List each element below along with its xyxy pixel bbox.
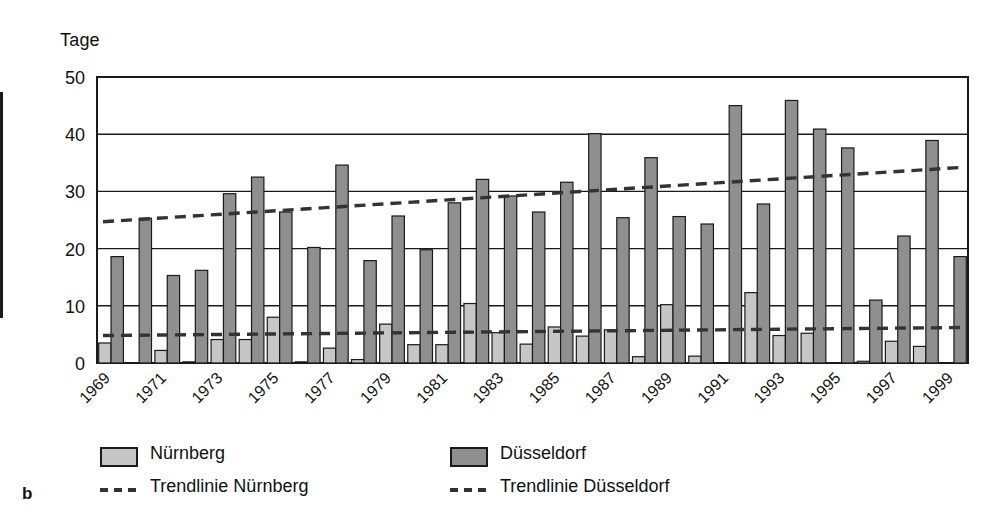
bar-nuernberg — [211, 340, 223, 363]
bar-duesseldorf — [476, 179, 488, 363]
bar-nuernberg — [576, 336, 588, 363]
x-tick-label-1985: 1985 — [526, 369, 563, 406]
bar-chart-plot: 0102030405019691971197319751977197919811… — [0, 0, 1008, 470]
bar-duesseldorf — [870, 300, 882, 363]
y-tick-label-20: 20 — [65, 240, 85, 260]
x-tick-label-1995: 1995 — [806, 369, 843, 406]
bar-duesseldorf — [898, 236, 910, 363]
bar-duesseldorf — [420, 250, 432, 363]
bar-duesseldorf — [364, 261, 376, 363]
x-tick-label-1977: 1977 — [301, 369, 338, 406]
legend-dash-nuernberg-trend — [100, 488, 136, 492]
x-tick-label-1987: 1987 — [582, 369, 619, 406]
x-tick-label-1997: 1997 — [863, 369, 900, 406]
bar-duesseldorf — [223, 194, 235, 363]
bar-nuernberg — [913, 346, 925, 363]
bar-nuernberg — [267, 317, 279, 363]
x-tick-label-1991: 1991 — [694, 369, 731, 406]
y-tick-label-10: 10 — [65, 297, 85, 317]
x-tick-label-1973: 1973 — [188, 369, 225, 406]
x-tick-label-1981: 1981 — [413, 369, 450, 406]
y-tick-label-30: 30 — [65, 182, 85, 202]
bar-nuernberg — [183, 362, 195, 363]
bar-nuernberg — [661, 305, 673, 363]
bar-nuernberg — [352, 360, 364, 363]
bar-duesseldorf — [842, 148, 854, 363]
bar-nuernberg — [239, 340, 251, 363]
x-tick-label-1969: 1969 — [76, 369, 113, 406]
bar-duesseldorf — [448, 203, 460, 363]
bar-nuernberg — [408, 345, 420, 363]
bar-duesseldorf — [561, 182, 573, 363]
bar-duesseldorf — [504, 196, 516, 363]
bar-duesseldorf — [757, 204, 769, 363]
y-tick-label-50: 50 — [65, 68, 85, 88]
bar-nuernberg — [492, 333, 504, 363]
bar-nuernberg — [604, 330, 616, 363]
bar-nuernberg — [801, 333, 813, 363]
bar-duesseldorf — [280, 212, 292, 363]
bar-nuernberg — [436, 345, 448, 363]
bar-nuernberg — [155, 350, 167, 363]
bar-nuernberg — [885, 341, 897, 363]
bar-duesseldorf — [701, 224, 713, 363]
bar-duesseldorf — [167, 275, 179, 363]
bar-duesseldorf — [954, 257, 966, 363]
bar-duesseldorf — [392, 216, 404, 363]
legend-label-duesseldorf-trend: Trendlinie Düsseldorf — [500, 476, 669, 497]
legend-label-nuernberg-trend: Trendlinie Nürnberg — [150, 476, 308, 497]
bar-nuernberg — [633, 357, 645, 363]
bar-duesseldorf — [617, 218, 629, 363]
legend-label-nuernberg: Nürnberg — [150, 443, 225, 464]
bar-duesseldorf — [589, 134, 601, 363]
x-tick-label-1975: 1975 — [245, 369, 282, 406]
bar-nuernberg — [520, 344, 532, 363]
bar-nuernberg — [295, 362, 307, 363]
bar-nuernberg — [99, 343, 111, 363]
bar-duesseldorf — [533, 212, 545, 363]
legend-swatch-duesseldorf — [450, 447, 488, 467]
bar-duesseldorf — [111, 257, 123, 363]
x-tick-label-1971: 1971 — [132, 369, 169, 406]
bar-duesseldorf — [926, 140, 938, 363]
bar-duesseldorf — [785, 100, 797, 363]
bar-nuernberg — [380, 324, 392, 363]
y-tick-label-40: 40 — [65, 125, 85, 145]
x-tick-label-1989: 1989 — [638, 369, 675, 406]
x-tick-label-1983: 1983 — [469, 369, 506, 406]
x-tick-label-1979: 1979 — [357, 369, 394, 406]
bar-duesseldorf — [195, 270, 207, 363]
x-tick-label-1999: 1999 — [919, 369, 956, 406]
bar-nuernberg — [323, 348, 335, 363]
bar-nuernberg — [689, 356, 701, 363]
bar-duesseldorf — [308, 247, 320, 363]
y-tick-label-0: 0 — [75, 354, 85, 374]
legend-dash-duesseldorf-trend — [450, 488, 486, 492]
legend-swatch-nuernberg — [100, 447, 138, 467]
x-tick-label-1993: 1993 — [750, 369, 787, 406]
bar-nuernberg — [857, 361, 869, 363]
panel-label: b — [22, 484, 32, 504]
chart-figure: Tage 01020304050196919711973197519771979… — [0, 0, 1008, 529]
legend-label-duesseldorf: Düsseldorf — [500, 443, 586, 464]
bar-duesseldorf — [673, 217, 685, 363]
bar-nuernberg — [773, 336, 785, 363]
bar-duesseldorf — [139, 218, 151, 363]
bar-duesseldorf — [729, 106, 741, 363]
